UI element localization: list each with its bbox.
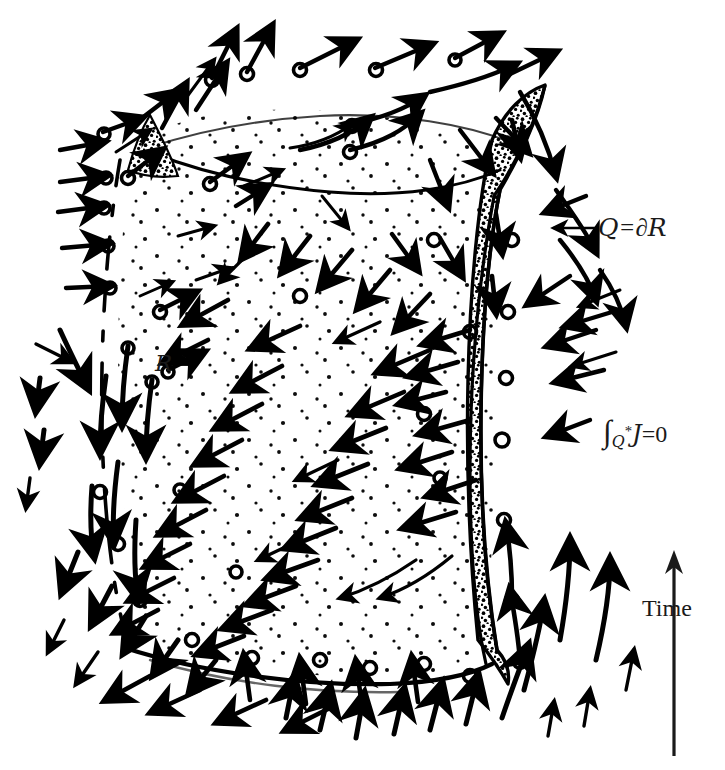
boundary-label-q: Q <box>598 213 619 242</box>
time-axis-arrow <box>656 548 692 758</box>
boundary-label: Q=∂R <box>598 213 667 242</box>
region-label: R <box>155 350 172 377</box>
flux-value: 0 <box>655 421 667 447</box>
boundary-label-partial: ∂ <box>635 214 647 241</box>
flux-equals: = <box>642 421 656 447</box>
boundary-label-r: R <box>648 213 667 242</box>
boundary-label-equals: = <box>619 214 636 241</box>
spacetime-region-figure <box>0 0 725 770</box>
integral-sign: ∫ <box>603 414 612 449</box>
figure-ink <box>26 26 634 738</box>
current-symbol: J <box>632 420 642 448</box>
flux-equation-label: ∫Q*J=0 <box>603 420 667 451</box>
hodge-star: * <box>625 423 632 439</box>
integral-subscript: Q <box>612 432 625 451</box>
region-label-text: R <box>155 350 172 376</box>
